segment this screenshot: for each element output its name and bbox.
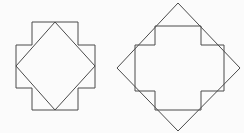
inscribed-diamond xyxy=(16,22,95,110)
figure-left xyxy=(16,22,95,110)
geometry-diagram xyxy=(0,0,244,133)
cross-outline xyxy=(16,22,95,110)
figure-canvas xyxy=(0,0,244,133)
figure-right xyxy=(117,3,240,131)
